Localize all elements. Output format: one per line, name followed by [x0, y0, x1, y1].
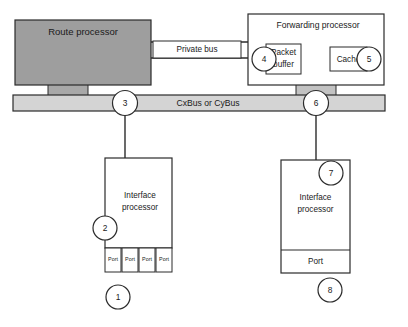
route-processor-label: Route processor: [48, 26, 118, 37]
interface-processor-left-label-line1: Interface: [124, 191, 156, 200]
interface-processor-left-label-line2: processor: [122, 203, 158, 212]
system-bus-label: CxBus or CyBus: [176, 98, 239, 108]
callout-5-number: 5: [367, 54, 372, 64]
callout-3-number: 3: [123, 98, 128, 108]
callout-4-number: 4: [262, 54, 267, 64]
port-label-single: Port: [308, 257, 324, 266]
port-label-3: Port: [142, 256, 152, 262]
callout-1-number: 1: [116, 292, 121, 302]
callout-2-number: 2: [103, 223, 108, 233]
callout-7-number: 7: [329, 168, 334, 178]
router-architecture-diagram: CxBus or CyBus Route processor Private b…: [0, 0, 408, 327]
port-label-1: Port: [108, 256, 118, 262]
interface-processor-right-label-line1: Interface: [300, 193, 332, 202]
diagram-canvas: CxBus or CyBus Route processor Private b…: [0, 0, 408, 327]
forwarding-processor-label: Forwarding processor: [276, 20, 359, 30]
interface-processor-right-label-line2: processor: [298, 205, 334, 214]
port-label-2: Port: [125, 256, 135, 262]
callout-8-number: 8: [328, 285, 333, 295]
port-label-4: Port: [159, 256, 169, 262]
private-bus-label: Private bus: [177, 45, 218, 54]
callout-6-number: 6: [314, 98, 319, 108]
